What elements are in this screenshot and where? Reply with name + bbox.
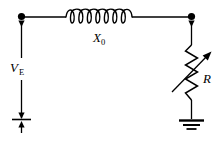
junction-dot-right <box>188 13 195 20</box>
resistance-symbol: R <box>202 71 211 86</box>
resistance-label: R <box>202 71 211 86</box>
circuit-diagram: V E X 0 R <box>0 0 223 144</box>
circuit-schematic-svg: V E X 0 R <box>0 0 223 144</box>
source-voltage-label: V E <box>10 60 24 77</box>
junction-dot-left <box>18 13 25 20</box>
inductor-coil-icon <box>66 9 132 23</box>
voltage-source-symbol <box>12 23 31 133</box>
source-voltage-subscript: E <box>19 67 24 77</box>
earth-ground-icon <box>179 121 204 130</box>
inductor-winding-path <box>66 9 132 23</box>
source-arrow-head-down <box>18 113 24 120</box>
reactance-subscript: 0 <box>101 37 105 47</box>
reactance-label: X 0 <box>92 30 105 47</box>
